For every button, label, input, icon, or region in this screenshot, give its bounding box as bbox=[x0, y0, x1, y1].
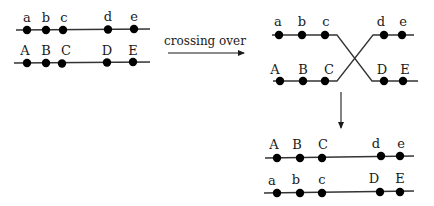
gene-locus bbox=[377, 152, 385, 160]
before-top-chromatid: a b c d e bbox=[16, 9, 150, 34]
during-right-segments: d e D E bbox=[377, 14, 410, 85]
gene-locus bbox=[104, 25, 112, 33]
allele-label: D bbox=[369, 171, 379, 186]
gene-locus bbox=[59, 26, 67, 34]
allele-label: E bbox=[128, 43, 138, 58]
process-arrow: crossing over bbox=[164, 34, 246, 53]
gene-locus bbox=[380, 77, 388, 85]
process-label: crossing over bbox=[164, 34, 246, 48]
allele-label: c bbox=[318, 172, 325, 187]
allele-label: E bbox=[400, 62, 410, 77]
allele-label: D bbox=[377, 62, 387, 77]
gene-locus bbox=[103, 58, 111, 66]
gene-locus bbox=[23, 26, 31, 34]
gene-locus bbox=[296, 154, 304, 162]
gene-locus bbox=[42, 59, 50, 67]
allele-label: c bbox=[60, 10, 67, 25]
crossing-over-diagram: a b c d e A B C D E crossing over a b c bbox=[0, 0, 434, 206]
gene-locus bbox=[398, 31, 406, 39]
after-top-chromatid: A B C d e bbox=[265, 136, 414, 162]
gene-locus bbox=[273, 154, 281, 162]
gene-locus bbox=[273, 189, 281, 197]
gene-locus bbox=[396, 152, 404, 160]
gene-locus bbox=[321, 77, 329, 85]
gene-locus bbox=[321, 31, 329, 39]
allele-label: A bbox=[19, 43, 30, 58]
allele-label: C bbox=[324, 62, 334, 77]
gene-locus bbox=[129, 58, 137, 66]
gene-locus bbox=[318, 154, 326, 162]
allele-label: d bbox=[377, 14, 385, 29]
allele-label: a bbox=[23, 10, 31, 25]
allele-label: D bbox=[102, 43, 112, 58]
allele-label: a bbox=[268, 173, 276, 188]
gene-locus bbox=[42, 26, 50, 34]
allele-label: A bbox=[269, 62, 280, 77]
allele-label: b bbox=[298, 14, 306, 29]
allele-label: c bbox=[322, 14, 329, 29]
before-bottom-chromatid: A B C D E bbox=[14, 43, 150, 68]
gene-locus bbox=[299, 77, 307, 85]
allele-label: A bbox=[268, 137, 279, 152]
gene-locus bbox=[275, 31, 283, 39]
gene-locus bbox=[298, 31, 306, 39]
allele-label: d bbox=[104, 9, 112, 24]
allele-label: B bbox=[298, 62, 308, 77]
allele-label: b bbox=[42, 10, 50, 25]
allele-label: C bbox=[61, 43, 71, 58]
gene-locus bbox=[23, 59, 31, 67]
gene-locus bbox=[399, 77, 407, 85]
allele-label: B bbox=[292, 137, 302, 152]
allele-label: e bbox=[399, 14, 407, 29]
allele-label: b bbox=[292, 172, 300, 187]
allele-label: E bbox=[395, 171, 405, 186]
allele-label: a bbox=[274, 14, 282, 29]
allele-label: e bbox=[397, 136, 405, 151]
gene-locus bbox=[396, 188, 404, 196]
gene-locus bbox=[130, 25, 138, 33]
gene-locus bbox=[380, 31, 388, 39]
gene-locus bbox=[376, 188, 384, 196]
gene-locus bbox=[276, 77, 284, 85]
allele-label: B bbox=[41, 43, 51, 58]
gene-locus bbox=[296, 189, 304, 197]
gene-locus bbox=[318, 189, 326, 197]
after-bottom-chromatid: a b c D E bbox=[264, 171, 414, 197]
gene-locus bbox=[58, 59, 66, 67]
during-bottom-chromatid: A B C bbox=[269, 35, 414, 85]
allele-label: C bbox=[318, 137, 328, 152]
allele-label: e bbox=[130, 9, 138, 24]
allele-label: d bbox=[372, 136, 380, 151]
